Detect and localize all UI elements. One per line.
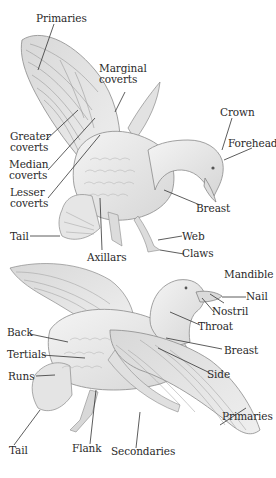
label-web: Web	[182, 231, 205, 242]
label-secondaries: Secondaries	[111, 446, 175, 457]
label-marginal-coverts: Marginal coverts	[99, 63, 147, 85]
label-lower-primaries: Primaries	[222, 411, 273, 422]
label-side: Side	[207, 369, 230, 380]
label-nail: Nail	[246, 291, 268, 302]
label-lower-breast: Breast	[224, 345, 258, 356]
label-nostril: Nostril	[212, 306, 248, 317]
label-crown: Crown	[220, 107, 255, 118]
label-axillars: Axillars	[87, 252, 126, 263]
label-lesser-coverts: Lesser coverts	[10, 187, 48, 209]
label-greater-coverts: Greater coverts	[10, 131, 51, 153]
label-lower-tail: Tail	[9, 445, 28, 456]
label-mandible: Mandible	[224, 269, 273, 280]
lower-duck-figure	[10, 264, 260, 434]
label-tertials: Tertials	[7, 349, 46, 360]
label-upper-primaries: Primaries	[36, 13, 87, 24]
label-median-coverts: Median coverts	[9, 159, 48, 181]
label-runs: Runs	[8, 371, 34, 382]
label-throat: Throat	[198, 321, 233, 332]
duck-anatomy-diagram: Primaries Marginal coverts Crown Forehea…	[0, 0, 276, 478]
label-claws: Claws	[182, 248, 214, 259]
label-upper-breast: Breast	[196, 203, 230, 214]
label-back: Back	[7, 327, 33, 338]
label-forehead: Forehead	[228, 138, 276, 149]
label-upper-tail: Tail	[10, 231, 29, 242]
label-flank: Flank	[72, 443, 102, 454]
